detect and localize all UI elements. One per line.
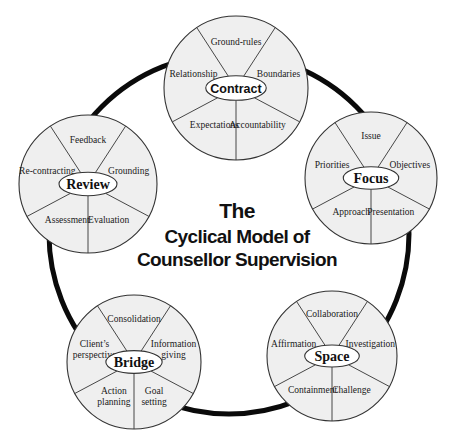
- segment-label-line: Objectives: [390, 160, 431, 170]
- segment-label-line: Affirmation: [271, 339, 316, 349]
- segment-label-line: Action: [101, 386, 127, 396]
- segment-label: Approach: [332, 207, 370, 217]
- stage-hub-label: Focus: [354, 171, 390, 186]
- stage-bridge: ConsolidationInformationgivingGoalsettin…: [67, 295, 201, 429]
- segment-label: Ground-rules: [211, 37, 262, 47]
- segment-label-line: Approach: [332, 207, 370, 217]
- stage-hub-label: Space: [315, 349, 350, 364]
- segment-label: Consolidation: [107, 314, 161, 324]
- stages-layer: Ground-rulesBoundariesAccountabilityExpe…: [19, 16, 437, 429]
- segment-label-line: Goal: [145, 386, 164, 396]
- segment-label-line: Evaluation: [88, 215, 129, 225]
- stage-space: CollaborationInvestigationChallengeConta…: [267, 291, 397, 421]
- segment-label-line: Relationship: [170, 69, 218, 79]
- segment-label-line: Containment: [288, 385, 337, 395]
- cyclical-model-diagram: Ground-rulesBoundariesAccountabilityExpe…: [0, 0, 456, 447]
- segment-label: Priorities: [315, 160, 350, 170]
- segment-label-line: Client’s: [80, 339, 110, 349]
- segment-label-line: Issue: [361, 131, 381, 141]
- segment-label: Relationship: [170, 69, 218, 79]
- segment-label-line: giving: [161, 350, 186, 360]
- diagram-title: The Cyclical Model of Counsellor Supervi…: [137, 199, 337, 270]
- segment-label-line: Information: [151, 339, 197, 349]
- segment-label: Grounding: [108, 166, 149, 176]
- stage-review: FeedbackGroundingEvaluationAssessmentRe-…: [19, 115, 157, 253]
- segment-label: Affirmation: [271, 339, 316, 349]
- segment-label: Boundaries: [257, 69, 301, 79]
- segment-label-line: Re-contracting: [19, 166, 76, 176]
- segment-label: Feedback: [70, 135, 107, 145]
- segment-label: Issue: [361, 131, 381, 141]
- segment-label: Re-contracting: [19, 166, 76, 176]
- segment-label: Assessment: [45, 215, 90, 225]
- segment-label-line: Feedback: [70, 135, 107, 145]
- title-line-2: Cyclical Model of: [164, 226, 310, 247]
- title-line-1: The: [219, 199, 255, 222]
- segment-label: Investigation: [346, 339, 396, 349]
- segment-label-line: Challenge: [332, 385, 371, 395]
- segment-label-line: setting: [141, 397, 167, 407]
- segment-label: Actionplanning: [97, 386, 130, 407]
- stage-hub-label: Contract: [210, 82, 262, 96]
- stage-hub-label: Bridge: [114, 355, 154, 370]
- segment-label-line: Priorities: [315, 160, 350, 170]
- segment-label-line: Collaboration: [306, 309, 358, 319]
- segment-label: Goalsetting: [141, 386, 167, 407]
- segment-label-line: planning: [97, 397, 130, 407]
- segment-label: Expectations: [190, 120, 239, 130]
- segment-label-line: Presentation: [367, 207, 414, 217]
- segment-label-line: Consolidation: [107, 314, 161, 324]
- segment-label-line: Assessment: [45, 215, 90, 225]
- segment-label-line: Grounding: [108, 166, 149, 176]
- segment-label: Challenge: [332, 385, 371, 395]
- title-line-3: Counsellor Supervision: [137, 249, 337, 270]
- segment-label-line: Boundaries: [257, 69, 301, 79]
- segment-label-line: Expectations: [190, 120, 239, 130]
- segment-label: Objectives: [390, 160, 431, 170]
- stage-hub-label: Review: [66, 177, 110, 192]
- segment-label-line: Ground-rules: [211, 37, 262, 47]
- segment-label: Collaboration: [306, 309, 358, 319]
- segment-label-line: Investigation: [346, 339, 396, 349]
- stage-focus: IssueObjectivesPresentationApproachPrior…: [305, 112, 437, 244]
- segment-label: Containment: [288, 385, 337, 395]
- segment-label: Presentation: [367, 207, 414, 217]
- stage-contract: Ground-rulesBoundariesAccountabilityExpe…: [164, 16, 308, 160]
- segment-label: Evaluation: [88, 215, 129, 225]
